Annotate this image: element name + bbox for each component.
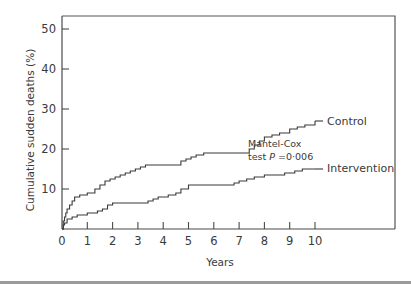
- series-label-intervention: Intervention: [327, 162, 394, 175]
- y-tick-label: 40: [41, 62, 56, 76]
- x-tick-label: 9: [286, 234, 293, 248]
- series-label-control: Control: [327, 115, 367, 128]
- annotation-line2: test P =0·006: [248, 151, 313, 162]
- y-axis-label: Cumulative sudden deaths (%): [24, 49, 36, 211]
- y-tick-label: 10: [41, 182, 56, 196]
- x-tick-label: 1: [84, 234, 91, 248]
- y-tick-label: 20: [41, 142, 56, 156]
- x-axis-label: Years: [205, 256, 234, 268]
- x-tick-label: 2: [109, 234, 116, 248]
- series-line-intervention: [62, 169, 315, 229]
- x-tick-label: 7: [235, 234, 242, 248]
- x-tick-label: 3: [134, 234, 141, 248]
- annotation-line1: Mantel-Cox: [248, 138, 302, 149]
- annotation-p-value: =0·006: [275, 151, 313, 162]
- chart: 012345678910 1020304050 Cumulative sudde…: [0, 0, 411, 284]
- x-tick-label: 4: [160, 234, 167, 248]
- x-tick-label: 5: [185, 234, 192, 248]
- y-tick-label: 50: [41, 22, 56, 36]
- annotation-test-word: test: [248, 151, 269, 162]
- y-ticks: 1020304050: [41, 22, 69, 196]
- x-tick-label: 0: [58, 234, 65, 248]
- x-ticks: 012345678910: [58, 222, 322, 248]
- x-tick-label: 6: [210, 234, 217, 248]
- x-tick-label: 10: [308, 234, 323, 248]
- x-tick-label: 8: [261, 234, 268, 248]
- y-tick-label: 30: [41, 102, 56, 116]
